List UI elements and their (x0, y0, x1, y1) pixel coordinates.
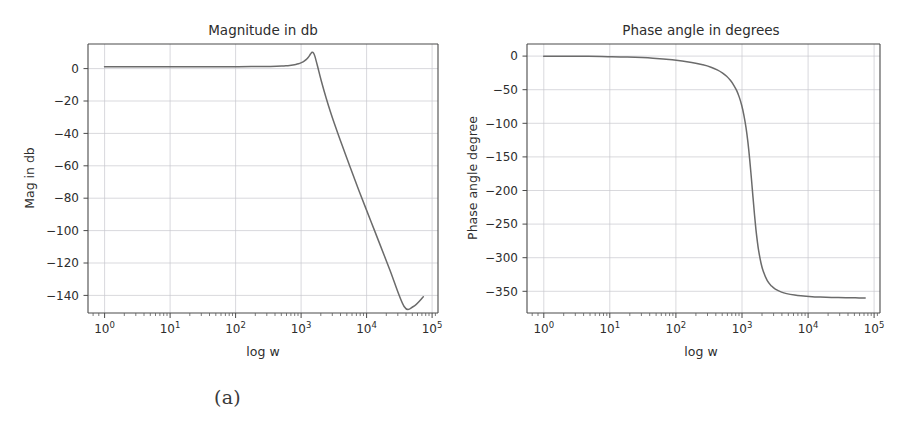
xtick-marks-phase (544, 313, 874, 318)
svg-text:102: 102 (666, 320, 687, 336)
xtick-exp-phase-2: 2 (681, 320, 686, 330)
xaxis-label-phase: log w (684, 344, 717, 359)
ytick-label-phase-6: −300 (485, 251, 518, 265)
xtick-base-phase-0: 10 (533, 322, 548, 336)
svg-text:103: 103 (732, 320, 753, 336)
plot-area-phase (527, 44, 880, 313)
xtick-base-magnitude-0: 10 (94, 322, 109, 336)
svg-text:101: 101 (599, 320, 620, 336)
chart-title-phase: Phase angle in degrees (622, 22, 779, 38)
svg-text:100: 100 (94, 320, 115, 336)
ytick-label-magnitude-6: −120 (46, 256, 79, 270)
chart-title-magnitude: Magnitude in db (208, 22, 318, 38)
svg-text:105: 105 (422, 320, 443, 336)
xtick-exp-magnitude-1: 1 (175, 320, 180, 330)
xtick-base-phase-1: 10 (599, 322, 614, 336)
xtick-base-magnitude-3: 10 (291, 322, 306, 336)
xtick-exp-phase-1: 1 (615, 320, 620, 330)
svg-text:104: 104 (798, 320, 819, 336)
xtick-exp-phase-0: 0 (549, 320, 554, 330)
xtick-base-phase-2: 10 (666, 322, 681, 336)
xtick-base-magnitude-5: 10 (422, 322, 437, 336)
ytick-label-magnitude-3: −60 (54, 159, 79, 173)
xtick-exp-phase-3: 3 (747, 320, 752, 330)
ytick-label-magnitude-0: 0 (71, 62, 79, 76)
bode-figure: Magnitude in db (0, 0, 911, 426)
xtick-labels-magnitude: 100 101 102 103 104 105 (94, 320, 442, 336)
caption-a-text: (a) (214, 386, 241, 408)
svg-text:100: 100 (533, 320, 554, 336)
ytick-label-phase-4: −200 (485, 184, 518, 198)
magnitude-chart: Magnitude in db (0, 0, 455, 380)
panel-phase: Phase angle in degrees (456, 0, 911, 426)
ytick-marks-magnitude (84, 69, 89, 296)
phase-chart: Phase angle in degrees (456, 0, 911, 380)
ytick-marks-phase (523, 56, 528, 291)
ytick-label-magnitude-4: −80 (54, 191, 79, 205)
ytick-label-magnitude-7: −140 (46, 289, 79, 303)
xtick-exp-phase-4: 4 (813, 320, 818, 330)
xtick-base-magnitude-1: 10 (160, 322, 175, 336)
svg-text:101: 101 (160, 320, 181, 336)
yaxis-label-magnitude: Mag in db (22, 147, 37, 209)
xtick-base-phase-5: 10 (864, 322, 879, 336)
ytick-label-phase-1: −50 (493, 83, 518, 97)
ytick-label-magnitude-1: −20 (54, 94, 79, 108)
xtick-exp-magnitude-0: 0 (110, 320, 115, 330)
xaxis-label-magnitude: log w (246, 344, 279, 359)
xtick-exp-magnitude-2: 2 (241, 320, 246, 330)
xtick-base-magnitude-4: 10 (356, 322, 371, 336)
svg-text:104: 104 (356, 320, 377, 336)
xtick-base-magnitude-2: 10 (225, 322, 240, 336)
svg-text:103: 103 (291, 320, 312, 336)
svg-text:105: 105 (864, 320, 885, 336)
xtick-marks-magnitude (105, 313, 433, 318)
xtick-base-phase-3: 10 (732, 322, 747, 336)
ytick-label-phase-3: −150 (485, 150, 518, 164)
caption-panel-a: (a) (0, 386, 455, 408)
xtick-exp-magnitude-3: 3 (306, 320, 311, 330)
plot-area-magnitude (88, 44, 438, 313)
xtick-exp-magnitude-5: 5 (437, 320, 442, 330)
xtick-base-phase-4: 10 (798, 322, 813, 336)
ytick-label-phase-2: −100 (485, 117, 518, 131)
ytick-label-phase-5: −250 (485, 217, 518, 231)
ytick-label-magnitude-5: −100 (46, 224, 79, 238)
xtick-exp-phase-5: 5 (879, 320, 884, 330)
svg-text:102: 102 (225, 320, 246, 336)
ytick-label-phase-0: 0 (510, 49, 518, 63)
panel-magnitude: Magnitude in db (0, 0, 455, 426)
xtick-exp-magnitude-4: 4 (372, 320, 377, 330)
ytick-label-phase-7: −350 (485, 285, 518, 299)
ytick-label-magnitude-2: −40 (54, 127, 79, 141)
xtick-labels-phase: 100 101 102 103 104 105 (533, 320, 884, 336)
yaxis-label-phase: Phase angle degree (465, 116, 480, 240)
